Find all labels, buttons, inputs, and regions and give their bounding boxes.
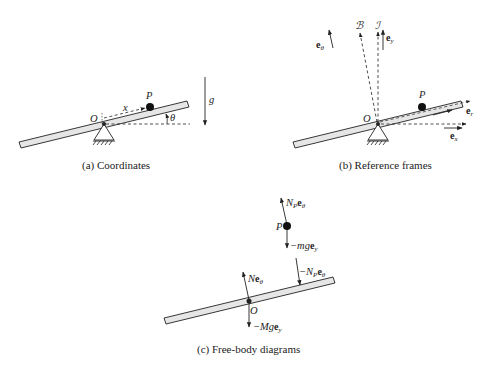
point-label: P xyxy=(145,90,153,101)
caption-b: (b) Reference frames xyxy=(339,159,432,172)
pivot-point xyxy=(247,299,252,304)
caption-a: (a) Coordinates xyxy=(82,159,150,172)
weight-bar-label: −Mgey xyxy=(253,321,283,334)
inertial-frame-label: ℐ xyxy=(375,20,382,31)
seesaw-diagram: O P x θ g (a) Coordinates O P ℬ ℐ eθ ey … xyxy=(0,0,494,371)
pivot-point xyxy=(376,122,380,126)
particle-p xyxy=(418,103,426,111)
panel-a-coordinates: O P x θ g (a) Coordinates xyxy=(19,77,214,172)
origin-label: O xyxy=(90,113,98,124)
x-label: x xyxy=(122,102,128,113)
body-frame-label: ℬ xyxy=(355,20,364,31)
theta-label: θ xyxy=(170,112,175,123)
g-label: g xyxy=(209,94,214,105)
origin-label: O xyxy=(363,113,371,124)
e-theta-label: eθ xyxy=(316,39,324,52)
pivot-normal-label: Neθ xyxy=(247,273,263,286)
pivot-point xyxy=(102,122,106,126)
e-theta-arrow-icon xyxy=(329,30,333,48)
normal-on-p-label: NPeθ xyxy=(285,197,306,210)
point-label: P xyxy=(275,221,283,232)
particle-p xyxy=(146,103,154,111)
e-x-label: ex xyxy=(450,130,458,143)
point-label: P xyxy=(418,89,426,100)
panel-c-free-body-diagrams: P NPeθ −mgey −NPeθ O Neθ −Mgey (c) Free-… xyxy=(164,197,335,356)
theta-arc-icon xyxy=(166,114,167,124)
origin-label: O xyxy=(250,305,258,316)
weight-p-label: −mgey xyxy=(290,240,318,253)
particle-p xyxy=(283,222,291,230)
e-r-label: er xyxy=(466,105,473,118)
panel-b-reference-frames: O P ℬ ℐ eθ ey er ex (b) Reference frames xyxy=(293,20,473,172)
body-frame-axis xyxy=(360,33,377,122)
bar-axis-dashed xyxy=(380,101,470,122)
reaction-on-bar-label: −NPeθ xyxy=(299,266,326,279)
e-y-label: ey xyxy=(386,32,394,45)
caption-c: (c) Free-body diagrams xyxy=(197,343,300,356)
